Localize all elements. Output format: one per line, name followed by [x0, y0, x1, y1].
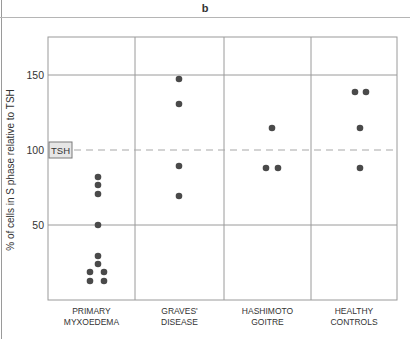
data-point: [357, 165, 364, 172]
data-point: [101, 269, 108, 276]
plot-frame: [48, 37, 397, 300]
data-point: [263, 165, 270, 172]
y-tick-label: 100: [26, 144, 44, 156]
data-point: [357, 125, 364, 132]
y-tick-label: 50: [32, 219, 44, 231]
data-point: [275, 165, 282, 172]
data-points: [87, 76, 370, 285]
y-axis-ticks: 50100150: [26, 69, 44, 231]
category-label: CONTROLS: [330, 317, 378, 327]
data-point: [95, 174, 102, 181]
category-label: PRIMARY: [72, 306, 111, 316]
data-point: [95, 261, 102, 268]
data-point: [95, 222, 102, 229]
scatter-chart: 50100150 PRIMARYMYXOEDEMAGRAVES'DISEASEH…: [0, 0, 410, 339]
data-point: [95, 253, 102, 260]
data-point: [101, 278, 108, 285]
y-tick-label: 150: [26, 69, 44, 81]
tsh-reference: TSH: [49, 142, 397, 158]
category-label: HASHIMOTO: [242, 306, 294, 316]
data-point: [176, 76, 183, 83]
category-label: DISEASE: [161, 317, 198, 327]
data-point: [176, 163, 183, 170]
data-point: [95, 182, 102, 189]
category-label: HEALTHY: [335, 306, 374, 316]
data-point: [363, 89, 370, 96]
data-point: [176, 193, 183, 200]
category-label: MYXOEDEMA: [64, 317, 120, 327]
category-label: GOITRE: [251, 317, 284, 327]
data-point: [87, 269, 94, 276]
category-label: GRAVES': [161, 306, 198, 316]
data-point: [176, 101, 183, 108]
data-point: [269, 125, 276, 132]
data-point: [87, 278, 94, 285]
plot-border: [48, 37, 397, 300]
data-point: [95, 191, 102, 198]
category-labels: PRIMARYMYXOEDEMAGRAVES'DISEASEHASHIMOTOG…: [64, 306, 378, 327]
data-point: [352, 89, 359, 96]
tsh-label: TSH: [51, 145, 70, 156]
